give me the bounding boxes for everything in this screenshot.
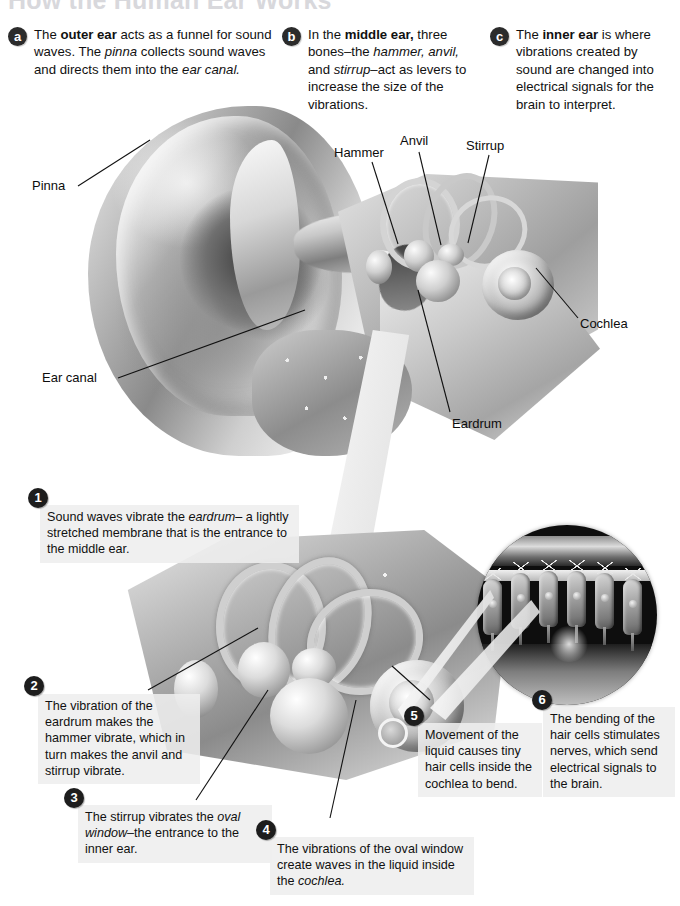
badge-number-1: 1 bbox=[28, 488, 48, 508]
hair-cell bbox=[539, 571, 558, 627]
step-text-2: The vibration of the eardrum makes the h… bbox=[38, 694, 200, 784]
cochlea-shape bbox=[482, 250, 554, 320]
label-cochlea: Cochlea bbox=[580, 316, 628, 331]
hammer-bone bbox=[366, 250, 392, 284]
intro-callout-b: b In the middle ear, three bones–the ham… bbox=[282, 26, 484, 113]
label-eardrum: Eardrum bbox=[452, 416, 502, 431]
stereocilia-icon bbox=[569, 560, 585, 572]
badge-number-6: 6 bbox=[532, 690, 552, 710]
intro-callout-c: c The inner ear is where vibrations crea… bbox=[490, 26, 676, 113]
label-ear-canal: Ear canal bbox=[42, 370, 97, 385]
intro-text-c: The inner ear is where vibrations create… bbox=[516, 26, 676, 113]
signal-glow bbox=[549, 626, 589, 662]
label-hammer: Hammer bbox=[334, 145, 384, 160]
ossicle-body bbox=[416, 260, 460, 302]
cell-nucleus bbox=[601, 594, 609, 602]
stereocilia-icon bbox=[485, 568, 501, 580]
step-text-6: The bending of the hair cells stimulates… bbox=[543, 707, 675, 797]
step-text-1: Sound waves vibrate the eardrum– a light… bbox=[40, 505, 299, 563]
intro-callout-a: a The outer ear acts as a funnel for sou… bbox=[8, 26, 276, 78]
hair-cell bbox=[567, 571, 586, 627]
stereocilia-icon bbox=[541, 560, 557, 572]
stereocilia-icon bbox=[597, 562, 613, 574]
badge-number-5: 5 bbox=[404, 706, 424, 726]
label-anvil: Anvil bbox=[400, 133, 428, 148]
cell-nucleus bbox=[517, 594, 525, 602]
label-stirrup: Stirrup bbox=[466, 138, 504, 153]
cell-nucleus bbox=[629, 600, 637, 608]
badge-letter-b: b bbox=[282, 27, 301, 46]
badge-number-4: 4 bbox=[256, 820, 276, 840]
cell-nucleus bbox=[573, 592, 581, 600]
tectorial-membrane bbox=[477, 536, 657, 567]
vestibule-shape bbox=[270, 678, 348, 754]
step-text-5: Movement of the liquid causes tiny hair … bbox=[418, 723, 542, 797]
intro-text-a: The outer ear acts as a funnel for sound… bbox=[34, 26, 276, 78]
badge-letter-c: c bbox=[490, 27, 509, 46]
badge-number-3: 3 bbox=[64, 788, 84, 808]
badge-number-2: 2 bbox=[24, 676, 44, 696]
hair-cell-inset bbox=[477, 525, 657, 705]
badge-letter-a: a bbox=[8, 27, 27, 46]
intro-text-b: In the middle ear, three bones–the hamme… bbox=[308, 26, 484, 113]
label-pinna: Pinna bbox=[32, 178, 65, 193]
step-text-4: The vibrations of the oval window create… bbox=[270, 837, 474, 895]
step-text-3: The stirrup vibrates the oval window–the… bbox=[78, 805, 272, 863]
ear-diagram-page: How the Human Ear Works bbox=[0, 0, 680, 906]
stereocilia-icon bbox=[513, 562, 529, 574]
page-title: How the Human Ear Works bbox=[8, 0, 332, 15]
oval-window-shape bbox=[378, 718, 408, 748]
hair-cell bbox=[595, 573, 614, 629]
hair-cell bbox=[623, 579, 642, 635]
cell-nucleus bbox=[545, 592, 553, 600]
nerve-fiber bbox=[631, 633, 634, 651]
stereocilia-icon bbox=[625, 568, 641, 580]
nerve-fiber bbox=[603, 627, 606, 645]
